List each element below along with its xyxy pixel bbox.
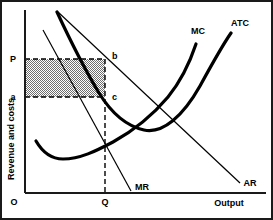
origin-label: O [10,197,17,207]
x-tick-label-Q: Q [101,197,108,207]
point-label-c: c [112,92,117,102]
y-axis-label: Revenue and costs [6,98,16,180]
ar-curve-label: AR [244,178,257,188]
x-axis-label: Output [214,198,244,208]
atc-curve-label: ATC [231,18,249,28]
economics-diagram-figure: P a Q O Output Revenue and costs MC ATC … [0,0,273,220]
point-label-b: b [112,51,118,61]
y-tick-label-P: P [10,54,16,64]
mc-curve-label: MC [191,26,205,36]
plot-canvas: P a Q O Output Revenue and costs MC ATC … [0,0,273,220]
mr-curve-label: MR [135,182,149,192]
mr-curve [43,30,131,191]
profit-shaded-region [25,59,105,97]
